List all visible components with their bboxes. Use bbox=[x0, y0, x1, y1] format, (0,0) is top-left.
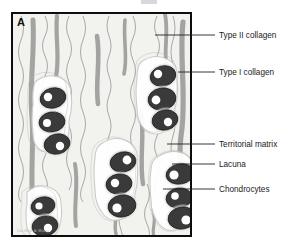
label-type-i-collagen: Type I collagen bbox=[219, 68, 274, 77]
label-type-ii-collagen: Type II collagen bbox=[219, 31, 276, 40]
figure-canvas: A Ida Kim & Marie Type II collagenType I… bbox=[0, 0, 300, 250]
panel-letter-label: A bbox=[17, 16, 25, 28]
label-column: Type II collagenType I collagenTerritori… bbox=[0, 0, 300, 250]
label-territorial-matrix: Territorial matrix bbox=[219, 140, 277, 149]
label-lacuna: Lacuna bbox=[219, 160, 246, 169]
artist-signature: Ida Kim & Marie bbox=[17, 228, 49, 233]
label-chondrocytes: Chondrocytes bbox=[219, 185, 270, 194]
